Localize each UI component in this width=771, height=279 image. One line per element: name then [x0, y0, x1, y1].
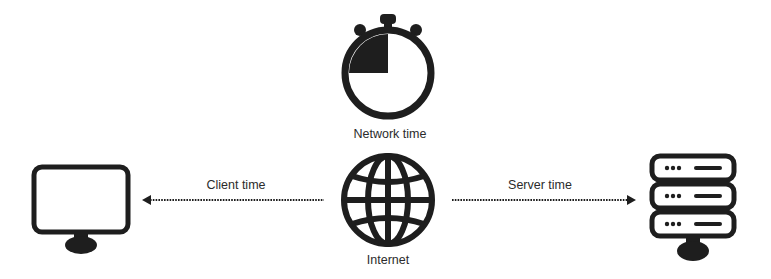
globe-icon [338, 150, 438, 250]
internet-label: Internet [338, 253, 438, 267]
server-time-arrow [451, 193, 636, 207]
server-time-label: Server time [500, 178, 580, 192]
network-timing-diagram: Network time Internet Client time [0, 0, 771, 279]
client-time-arrow [142, 193, 326, 207]
monitor-icon [30, 163, 132, 258]
network-time-label: Network time [338, 127, 442, 141]
server-rack-icon [648, 152, 738, 264]
stopwatch-icon [338, 10, 438, 125]
client-time-label: Client time [196, 178, 276, 192]
